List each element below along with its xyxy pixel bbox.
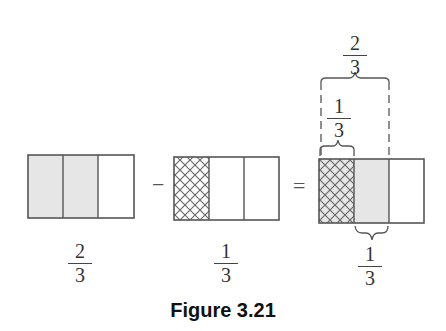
equals-operator: = [293, 173, 305, 199]
left-fraction-bar [28, 155, 134, 218]
fraction-label-inner-one-third: 1 3 [327, 96, 351, 140]
fraction-label-two-thirds: 2 3 [68, 241, 92, 285]
middle-fraction-bar [174, 157, 279, 220]
minus-operator: − [152, 172, 164, 198]
figure-caption: Figure 3.21 [0, 299, 446, 322]
bottom-brace [355, 226, 388, 240]
fraction-label-one-third-result: 1 3 [358, 244, 382, 288]
fraction-label-outer-two-thirds: 2 3 [343, 33, 367, 77]
fraction-label-one-third-middle: 1 3 [214, 241, 238, 285]
inner-top-brace [320, 140, 354, 156]
result-fraction-bar [319, 159, 424, 223]
